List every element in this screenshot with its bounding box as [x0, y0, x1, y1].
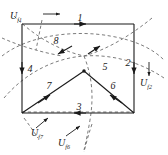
diagram-svg: 1 2 3 4 5 6 7 8 Uf1 Uf2 Uf7 Uf6	[0, 0, 168, 155]
label-U-f7: Uf7	[31, 127, 44, 140]
potential-label-group: Uf1 Uf2 Uf7 Uf6	[10, 10, 152, 150]
label-U-f6-sub: f6	[65, 144, 70, 150]
segment-label-8: 8	[54, 35, 59, 46]
diagonal-segment-7	[22, 71, 84, 113]
segment-label-6: 6	[111, 80, 116, 91]
segment-label-2: 2	[126, 57, 131, 68]
apex-node	[82, 69, 85, 72]
dashed-curve-bottom-tick	[84, 124, 92, 152]
arrow-segment-8	[58, 46, 72, 54]
potential-leader-arrows	[36, 14, 149, 136]
arrow-U-f6-leader	[66, 126, 80, 136]
arrow-segment-5	[88, 46, 100, 54]
segment-label-3: 3	[76, 101, 82, 112]
dashed-curve-upper	[2, 33, 164, 60]
label-U-f7-sub: f7	[38, 134, 44, 140]
figure-container: 1 2 3 4 5 6 7 8 Uf1 Uf2 Uf7 Uf6	[0, 0, 168, 155]
dashed-curve-left-diagonal	[14, 16, 84, 56]
arrow-segment-6	[110, 95, 122, 103]
segment-label-1: 1	[78, 12, 83, 23]
segment-label-5: 5	[103, 61, 108, 72]
segment-label-7: 7	[47, 80, 53, 91]
label-U-f6: Uf6	[58, 137, 70, 150]
label-U-f1: Uf1	[10, 10, 22, 23]
segment-label-4: 4	[28, 63, 33, 74]
arrow-segment-7	[38, 95, 50, 103]
label-U-f2-sub: f2	[147, 84, 152, 90]
label-U-f2: Uf2	[140, 77, 152, 90]
label-U-f1-sub: f1	[17, 17, 22, 23]
